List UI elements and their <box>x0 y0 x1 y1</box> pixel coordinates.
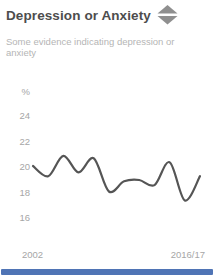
card-subtitle: Some evidence indicating depression or a… <box>6 36 206 58</box>
x-axis-start-label: 2002 <box>22 249 43 260</box>
card-title: Depression or Anxiety <box>6 8 151 23</box>
trend-line <box>33 156 200 201</box>
card-header: Depression or Anxiety <box>6 5 212 25</box>
trend-line-chart <box>0 80 216 230</box>
no-change-diamond-icon <box>157 5 178 25</box>
x-axis-end-label: 2016/17 <box>171 249 205 260</box>
x-axis-labels: 2002 2016/17 <box>0 249 216 263</box>
card-accent-bar <box>1 269 213 275</box>
indicator-card[interactable]: Depression or Anxiety Some evidence indi… <box>0 0 216 278</box>
trend-chart: % 2422201816 <box>0 80 216 230</box>
